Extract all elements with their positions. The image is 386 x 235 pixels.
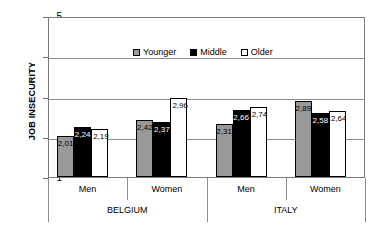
gridline: [49, 58, 364, 59]
bar-value-label: 2,19: [93, 132, 109, 141]
bar-value-label: 2,58: [313, 116, 329, 125]
bar-middle-0: 2,24: [74, 127, 91, 177]
bar-value-label: 2,89: [296, 104, 312, 113]
bar-middle-2: 2,66: [233, 110, 250, 177]
bar-value-label: 2,37: [154, 125, 170, 134]
bar-value-label: 2,66: [233, 113, 249, 122]
bar-value-label: 2,24: [75, 130, 91, 139]
x-category-label: Men: [207, 184, 286, 194]
axis-separator: [127, 178, 128, 200]
legend-item-older: Older: [241, 47, 273, 57]
bar-value-label: 2,01: [58, 139, 74, 148]
bar-value-label: 2,96: [172, 101, 188, 110]
chart-legend: Younger Middle Older: [133, 47, 273, 57]
legend-label-younger: Younger: [143, 47, 176, 57]
bar-older-0: 2,19: [91, 129, 108, 177]
bar-middle-3: 2,58: [312, 113, 329, 177]
gridline: [49, 99, 364, 100]
axis-separator: [207, 178, 208, 222]
axis-separator: [48, 178, 49, 222]
job-insecurity-bar-chart: JOB INSECURITY 12345 Younger Middle Olde…: [0, 0, 386, 235]
bar-older-2: 2,74: [250, 107, 267, 177]
axis-separator: [365, 178, 366, 222]
plot-area: Younger Middle Older 2,012,242,192,422,3…: [48, 17, 365, 178]
bar-older-1: 2,96: [170, 98, 187, 177]
bar-younger-3: 2,89: [295, 101, 312, 177]
legend-item-middle: Middle: [190, 47, 227, 57]
legend-swatch-middle: [190, 49, 197, 56]
bar-older-3: 2,64: [329, 111, 346, 177]
legend-label-middle: Middle: [200, 47, 227, 57]
legend-swatch-older: [241, 49, 248, 56]
legend-item-younger: Younger: [133, 47, 176, 57]
axis-separator: [286, 178, 287, 200]
x-category-label: Women: [286, 184, 365, 194]
bar-value-label: 2,64: [331, 114, 347, 123]
bar-younger-0: 2,01: [57, 136, 74, 177]
x-category-label: Women: [127, 184, 206, 194]
bar-value-label: 2,31: [216, 127, 232, 136]
x-category-label: Men: [48, 184, 127, 194]
bar-younger-2: 2,31: [216, 124, 233, 177]
x-group-label: BELGIUM: [48, 205, 207, 215]
bar-middle-1: 2,37: [153, 122, 170, 177]
legend-swatch-younger: [133, 49, 140, 56]
x-group-label: ITALY: [207, 205, 366, 215]
bar-younger-1: 2,42: [136, 120, 153, 177]
bar-value-label: 2,42: [137, 123, 153, 132]
bar-value-label: 2,74: [252, 110, 268, 119]
legend-label-older: Older: [251, 47, 273, 57]
